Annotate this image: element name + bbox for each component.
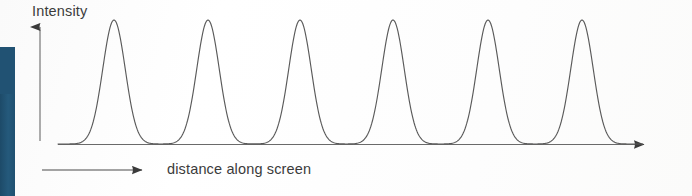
diffraction-intensity-figure: Intensity distance along screen [0,0,692,196]
intensity-plot [0,0,692,196]
x-axis-label: distance along screen [167,161,311,177]
y-axis-label: Intensity [32,3,87,19]
intensity-curve [58,20,643,144]
